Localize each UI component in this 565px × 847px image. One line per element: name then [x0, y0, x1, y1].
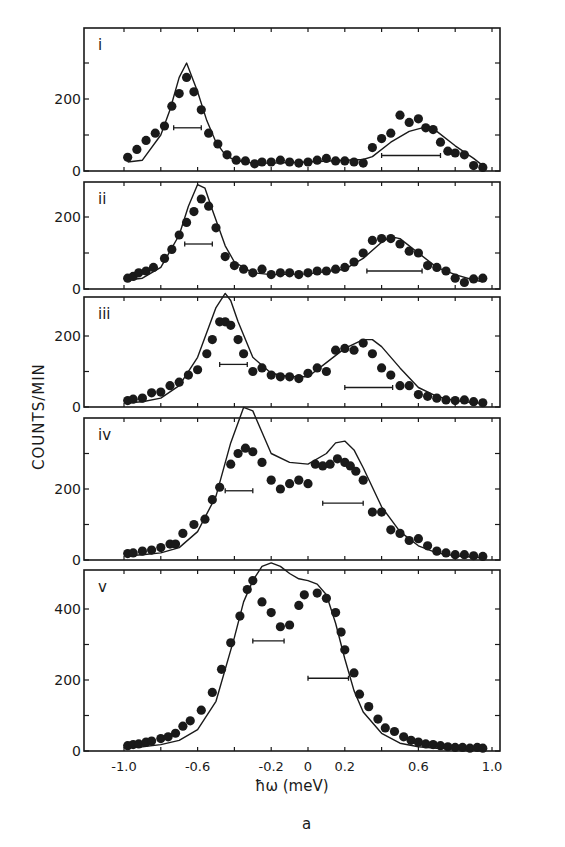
- data-point: [414, 390, 423, 399]
- data-point: [313, 266, 322, 275]
- data-point: [303, 479, 312, 488]
- data-point: [267, 370, 276, 379]
- data-point: [469, 551, 478, 560]
- data-point: [211, 223, 220, 232]
- data-point: [441, 395, 450, 404]
- x-tick-label: -0.6: [185, 759, 210, 774]
- data-point: [441, 548, 450, 557]
- panel-label: v: [98, 578, 107, 596]
- data-point: [257, 363, 266, 372]
- data-point: [202, 349, 211, 358]
- data-point: [294, 158, 303, 167]
- data-point: [123, 153, 132, 162]
- figure-caption: a: [302, 815, 311, 833]
- data-point: [303, 268, 312, 277]
- data-point: [226, 638, 235, 647]
- data-point: [178, 529, 187, 538]
- data-point: [395, 529, 404, 538]
- data-point: [197, 706, 206, 715]
- data-point: [349, 257, 358, 266]
- data-point: [182, 73, 191, 82]
- y-tick-label: 0: [72, 399, 81, 415]
- data-point: [129, 395, 138, 404]
- data-point: [151, 129, 160, 138]
- data-point: [243, 585, 252, 594]
- y-tick-label: 200: [54, 481, 81, 497]
- data-point: [257, 157, 266, 166]
- x-tick-label: 0.2: [334, 759, 355, 774]
- data-point: [147, 736, 156, 745]
- data-point: [429, 125, 438, 134]
- data-point: [478, 274, 487, 283]
- data-point: [200, 515, 209, 524]
- x-tick-label: 0.6: [408, 759, 429, 774]
- y-tick-label: 0: [72, 163, 81, 179]
- data-point: [230, 261, 239, 270]
- data-point: [178, 722, 187, 731]
- data-point: [460, 150, 469, 159]
- data-point: [405, 536, 414, 545]
- data-point: [432, 394, 441, 403]
- x-tick-label: -0.2: [259, 759, 284, 774]
- data-point: [325, 460, 334, 469]
- data-point: [451, 550, 460, 559]
- data-point: [469, 274, 478, 283]
- panel-v: 0200400v: [54, 563, 500, 759]
- data-point: [368, 349, 377, 358]
- y-tick-label: 200: [54, 209, 81, 225]
- data-point: [182, 218, 191, 227]
- data-point: [138, 547, 147, 556]
- data-point: [267, 157, 276, 166]
- data-point: [129, 548, 138, 557]
- data-point: [377, 507, 386, 516]
- data-point: [167, 245, 176, 254]
- data-point: [340, 645, 349, 654]
- data-point: [340, 344, 349, 353]
- data-point: [167, 102, 176, 111]
- data-point: [469, 397, 478, 406]
- x-tick-label: 0: [304, 759, 312, 774]
- data-point: [300, 590, 309, 599]
- data-point: [248, 576, 257, 585]
- data-point: [349, 346, 358, 355]
- data-point: [368, 507, 377, 516]
- data-point: [386, 525, 395, 534]
- panel-label: ii: [98, 190, 106, 208]
- data-point: [460, 278, 469, 287]
- data-point: [373, 714, 382, 723]
- data-point: [423, 392, 432, 401]
- y-tick-label: 0: [72, 552, 81, 568]
- data-point: [233, 335, 242, 344]
- data-point: [208, 495, 217, 504]
- data-point: [204, 129, 213, 138]
- y-tick-label: 200: [54, 672, 81, 688]
- data-point: [432, 547, 441, 556]
- data-point: [322, 266, 331, 275]
- y-tick-label: 400: [54, 601, 81, 617]
- data-point: [451, 148, 460, 157]
- data-point: [226, 460, 235, 469]
- data-point: [294, 374, 303, 383]
- data-point: [441, 266, 450, 275]
- data-point: [267, 270, 276, 279]
- data-point: [147, 545, 156, 554]
- model-curve: [128, 293, 483, 403]
- panel-frame: [84, 418, 500, 560]
- data-point: [331, 265, 340, 274]
- data-point: [436, 138, 445, 147]
- data-point: [423, 541, 432, 550]
- data-point: [294, 270, 303, 279]
- data-point: [359, 158, 368, 167]
- data-point: [381, 723, 390, 732]
- data-point: [267, 476, 276, 485]
- data-point: [233, 449, 242, 458]
- data-point: [171, 729, 180, 738]
- data-point: [171, 539, 180, 548]
- data-point: [204, 202, 213, 211]
- data-point: [331, 156, 340, 165]
- data-point: [248, 367, 257, 376]
- panel-frame: [84, 570, 500, 751]
- data-point: [285, 372, 294, 381]
- data-point: [232, 156, 241, 165]
- y-tick-label: 200: [54, 328, 81, 344]
